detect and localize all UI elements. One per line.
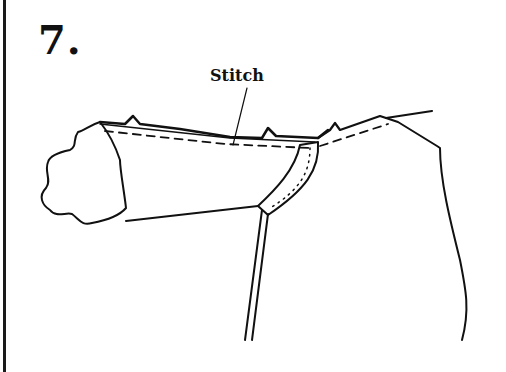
bodice-side [386,118,466,340]
sleeve-underside [126,206,258,221]
stitch-line-shoulder [320,124,388,146]
collar-band [258,142,318,215]
sleeve-cuff [42,122,126,224]
sewing-illustration [0,0,506,372]
bodice-shoulder [318,111,432,138]
